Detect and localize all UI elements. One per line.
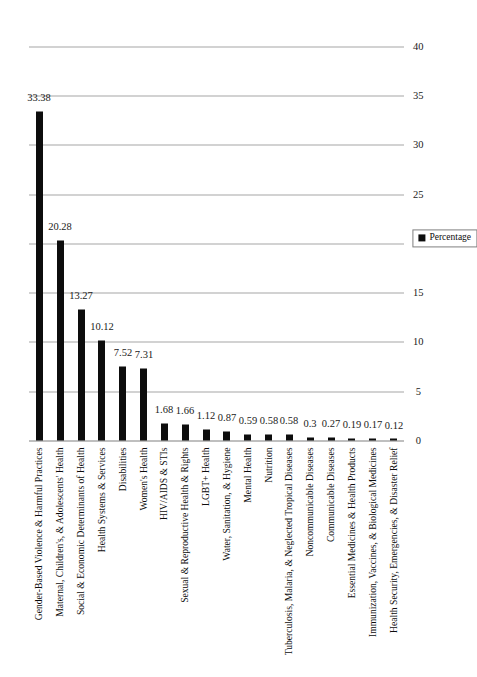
bar <box>36 111 43 440</box>
bar-value-label: 0.12 <box>384 421 402 432</box>
bar-value-label: 10.12 <box>90 322 114 333</box>
bar <box>223 431 230 440</box>
bar-series-percentage <box>29 47 404 441</box>
bar-value-label: 20.28 <box>48 222 72 233</box>
category-label: Immunization, Vaccines, & Biological Med… <box>368 447 378 637</box>
category-label: Disabilities <box>118 447 128 491</box>
value-tick-label: 15 <box>413 288 424 299</box>
bar-value-label: 33.38 <box>28 93 52 104</box>
bar <box>182 424 189 440</box>
bar <box>307 437 314 440</box>
bar-value-label: 0.58 <box>280 416 298 427</box>
value-tick-label: 10 <box>413 337 424 348</box>
bar-value-label: 0.59 <box>239 416 257 427</box>
bar <box>328 437 335 440</box>
category-label: HIV/AIDS & STIs <box>160 447 170 520</box>
bar <box>78 309 85 440</box>
category-label: LGBT+ Health <box>201 447 211 505</box>
bar-value-label: 1.66 <box>176 405 194 416</box>
value-tick-label: 40 <box>413 42 424 53</box>
legend-swatch-icon <box>418 234 425 241</box>
bar-value-label: 0.58 <box>259 416 277 427</box>
category-label: Communicable Diseases <box>326 447 336 542</box>
value-tick-label: 35 <box>413 91 424 102</box>
bar-value-label: 7.31 <box>134 350 152 361</box>
bar <box>98 340 105 440</box>
category-label: Gender-Based Violence & Harmful Practice… <box>35 447 45 620</box>
category-label: Noncommunicable Diseases <box>305 447 315 556</box>
legend-label: Percentage <box>429 233 471 243</box>
bar-value-label: 13.27 <box>69 291 93 302</box>
bar <box>390 439 397 441</box>
plot-area <box>29 47 404 441</box>
bar <box>244 434 251 440</box>
bar <box>161 423 168 440</box>
bar <box>348 438 355 440</box>
bar-value-label: 0.87 <box>218 413 236 424</box>
category-label: Social & Economic Determinants of Health <box>76 447 86 615</box>
category-label: Water, Sanitation, & Hygiene <box>222 447 232 560</box>
category-label: Health Security, Emergencies, & Disaster… <box>389 447 399 632</box>
bar <box>265 434 272 440</box>
value-tick-label: 5 <box>416 387 421 398</box>
category-label: Women's Health <box>139 447 149 510</box>
bar-value-label: 1.12 <box>197 411 215 422</box>
bar <box>286 434 293 440</box>
category-label: Tuberculosis, Malaria, & Neglected Tropi… <box>285 447 295 655</box>
category-label: Mental Health <box>243 447 253 502</box>
bar-value-label: 0.17 <box>364 420 382 431</box>
bar-value-label: 0.19 <box>343 420 361 431</box>
bar-value-label: 1.68 <box>155 405 173 416</box>
bar <box>119 366 126 440</box>
chart-legend: Percentage <box>412 229 477 247</box>
bar <box>140 368 147 440</box>
bar-value-label: 7.52 <box>114 348 132 359</box>
bar-value-label: 0.3 <box>304 419 317 430</box>
value-tick-label: 25 <box>413 190 424 201</box>
category-label: Health Systems & Services <box>97 447 107 552</box>
bar-value-label: 0.27 <box>322 419 340 430</box>
value-tick-label: 0 <box>416 436 421 447</box>
category-label: Maternal, Children's, & Adolescents' Hea… <box>55 447 65 616</box>
category-label: Nutrition <box>264 447 274 482</box>
value-tick-label: 30 <box>413 140 424 151</box>
category-label: Essential Medicines & Health Products <box>347 447 357 598</box>
bar <box>369 438 376 440</box>
bar <box>57 240 64 440</box>
category-label: Sexual & Reproductive Health & Rights <box>180 447 190 602</box>
bar <box>203 429 210 440</box>
